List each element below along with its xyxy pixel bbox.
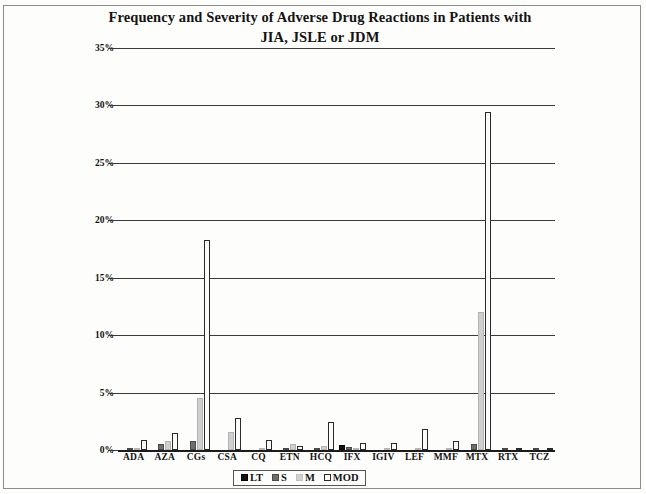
bar-group-rtx <box>493 48 524 450</box>
y-axis-tick <box>108 220 118 221</box>
y-axis-tick <box>108 393 118 394</box>
bar-group-hcq <box>305 48 336 450</box>
x-axis-label-rtx: RTX <box>493 452 524 470</box>
bar-mmf-m <box>446 448 452 450</box>
legend-swatch-m <box>296 474 303 481</box>
bar-group-aza <box>149 48 180 450</box>
bar-ada-m <box>134 448 140 450</box>
bar-igiv-mod <box>391 443 397 450</box>
bar-cgs-mod <box>204 240 210 450</box>
bar-group-cq <box>243 48 274 450</box>
y-axis-tick <box>108 278 118 279</box>
bar-aza-m <box>165 441 171 450</box>
legend-label-m: M <box>305 472 315 483</box>
x-axis-label-aza: AZA <box>149 452 180 470</box>
x-axis-label-cgs: CGs <box>180 452 211 470</box>
bar-etn-mod <box>297 446 303 450</box>
bar-aza-s <box>158 444 164 450</box>
bar-group-csa <box>212 48 243 450</box>
x-axis-label-csa: CSA <box>212 452 243 470</box>
legend-label-mod: MOD <box>333 472 359 483</box>
bar-csa-mod <box>235 418 241 450</box>
x-axis-label-mmf: MMF <box>430 452 461 470</box>
bar-hcq-mod <box>328 422 334 450</box>
bar-cq-mod <box>266 440 272 450</box>
bar-lef-m <box>415 448 421 450</box>
bar-mtx-mod <box>485 112 491 450</box>
bar-ifx-mod <box>360 443 366 450</box>
x-axis-label-ada: ADA <box>118 452 149 470</box>
x-axis-label-ifx: IFX <box>337 452 368 470</box>
bar-group-ada <box>118 48 149 450</box>
x-axis-label-etn: ETN <box>274 452 305 470</box>
bar-group-cgs <box>180 48 211 450</box>
bar-aza-mod <box>172 433 178 450</box>
bar-group-mtx <box>461 48 492 450</box>
bar-igiv-m <box>384 448 390 450</box>
legend-item-lt[interactable]: LT <box>241 472 263 483</box>
x-axis-label-igiv: IGIV <box>368 452 399 470</box>
legend-label-s: S <box>281 472 287 483</box>
bar-group-tcz <box>524 48 555 450</box>
bar-hcq-s <box>314 448 320 450</box>
bar-lef-mod <box>422 429 428 450</box>
bar-rtx-mod <box>516 448 522 450</box>
bar-tcz-s <box>533 448 539 450</box>
bar-group-etn <box>274 48 305 450</box>
legend-swatch-mod <box>324 474 331 481</box>
chart-title: Frequency and Severity of Adverse Drug R… <box>60 8 580 47</box>
y-axis-tick <box>108 450 118 451</box>
bar-cq-m <box>259 448 265 450</box>
bar-ada-s <box>127 448 133 450</box>
legend-label-lt: LT <box>250 472 263 483</box>
bar-group-mmf <box>430 48 461 450</box>
bar-ifx-s <box>346 447 352 450</box>
legend-swatch-s <box>272 474 279 481</box>
chart-title-line-2: JIA, JSLE or JDM <box>60 28 580 48</box>
bar-hcq-m <box>321 446 327 450</box>
legend-item-mod[interactable]: MOD <box>324 472 359 483</box>
legend-item-m[interactable]: M <box>296 472 315 483</box>
bar-ifx-lt <box>339 445 345 450</box>
legend-item-s[interactable]: S <box>272 472 287 483</box>
bar-mtx-m <box>478 312 484 450</box>
y-axis-tick <box>108 105 118 106</box>
chart-title-line-1: Frequency and Severity of Adverse Drug R… <box>60 8 580 28</box>
bar-cgs-s <box>190 441 196 450</box>
bar-rtx-s <box>502 448 508 450</box>
x-axis-label-lef: LEF <box>399 452 430 470</box>
bar-group-lef <box>399 48 430 450</box>
legend-swatch-lt <box>241 474 248 481</box>
bar-groups <box>118 48 555 450</box>
bar-etn-m <box>290 444 296 450</box>
y-axis-tick <box>108 335 118 336</box>
bar-cgs-m <box>197 398 203 450</box>
x-axis-label-cq: CQ <box>243 452 274 470</box>
x-axis-labels: ADAAZACGsCSACQETNHCQIFXIGIVLEFMMFMTXRTXT… <box>118 452 555 470</box>
bar-group-ifx <box>337 48 368 450</box>
y-axis-tick <box>108 48 118 49</box>
bar-csa-m <box>228 432 234 450</box>
bar-group-igiv <box>368 48 399 450</box>
chart-legend: LTSMMOD <box>233 470 366 486</box>
chart-page: Frequency and Severity of Adverse Drug R… <box>0 0 646 494</box>
bar-ada-mod <box>141 440 147 450</box>
x-axis-label-mtx: MTX <box>461 452 492 470</box>
y-axis-tick <box>108 163 118 164</box>
bar-etn-s <box>283 448 289 450</box>
bar-mtx-s <box>471 444 477 450</box>
x-axis-label-tcz: TCZ <box>524 452 555 470</box>
bar-tcz-mod <box>547 448 553 450</box>
bar-mmf-mod <box>453 441 459 450</box>
x-axis-label-hcq: HCQ <box>305 452 336 470</box>
bar-ifx-m <box>353 448 359 450</box>
